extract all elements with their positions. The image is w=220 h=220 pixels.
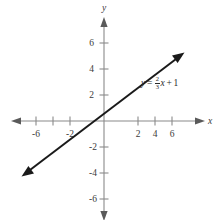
y-axis-arrow-down: [100, 211, 107, 220]
equation-plus: +: [166, 79, 171, 89]
equation-constant: 1: [174, 79, 179, 89]
x-tick-label-2: 2: [136, 129, 141, 139]
y-tick-label-4: 4: [89, 64, 94, 74]
y-tick-label-6: 6: [89, 38, 94, 48]
coordinate-plane: -6 -2 2 4 6 6 4 2 -2 -4 -6 x y: [0, 0, 220, 220]
equation-annotation: y = 2 3 x + 1: [141, 76, 178, 91]
x-axis-arrow-right: [195, 117, 205, 124]
y-axis-arrow-up: [100, 17, 107, 27]
x-axis-arrow-left: [11, 117, 21, 124]
x-tick-label--6: -6: [32, 129, 40, 139]
equation-equals: =: [147, 79, 152, 89]
x-tick-label-6: 6: [170, 129, 175, 139]
y-axis-label: y: [101, 3, 107, 13]
y-tick-label-2: 2: [89, 90, 94, 100]
y-axis: [100, 17, 107, 220]
y-tick-label--2: -2: [89, 142, 97, 152]
equation-variable: x: [160, 79, 164, 89]
x-axis: [11, 117, 205, 124]
graph-figure: -6 -2 2 4 6 6 4 2 -2 -4 -6 x y y = 2 3 x: [0, 0, 220, 220]
x-axis-label: x: [207, 116, 213, 126]
line-series-y-equals-two-thirds-x-plus-one: [22, 53, 185, 177]
y-tick-label--6: -6: [89, 194, 97, 204]
equation-lhs: y: [141, 79, 145, 89]
data-line-segment: [26, 56, 180, 173]
x-tick-label-4: 4: [153, 129, 158, 139]
y-tick-label--4: -4: [89, 168, 97, 178]
